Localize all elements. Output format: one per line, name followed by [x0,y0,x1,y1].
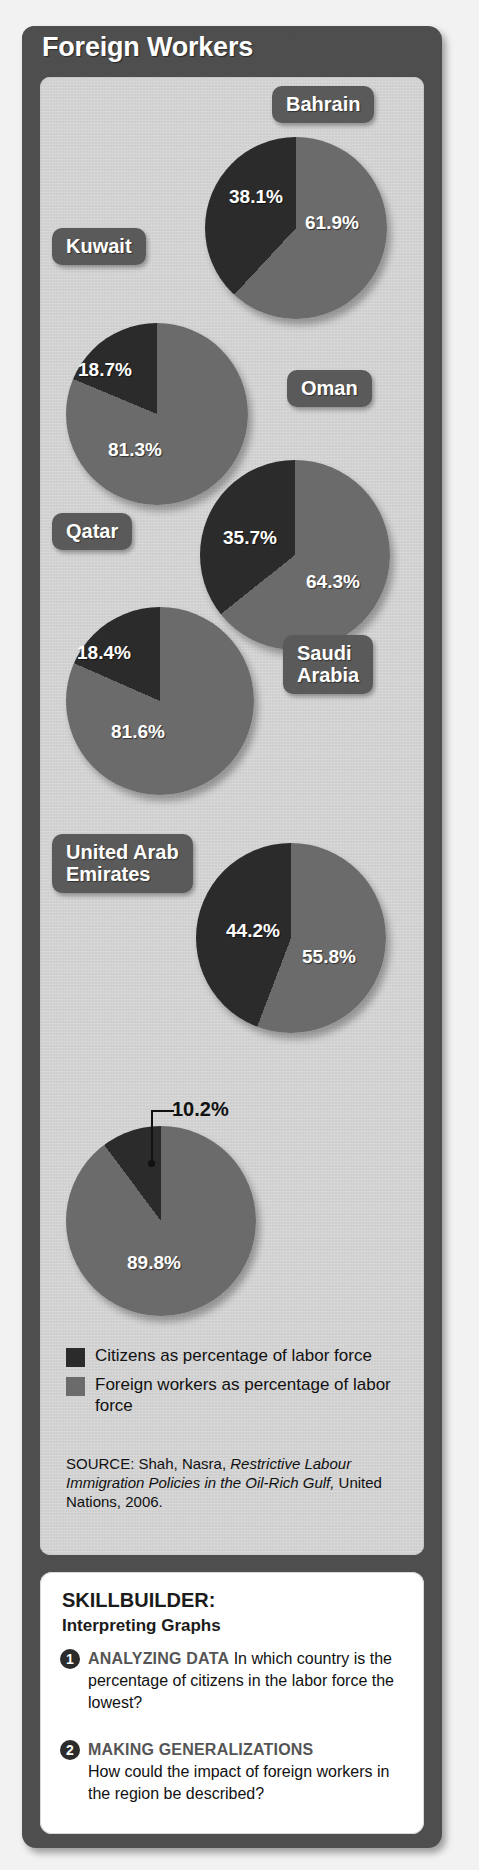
pie-label-bahrain-foreign: 61.9% [305,212,359,234]
pie-chart-uae [66,1126,256,1316]
legend-item-citizens: Citizens as percentage of labor force [66,1345,396,1367]
question-1-body: ANALYZING DATA In which country is the p… [88,1648,408,1714]
page-title: Foreign Workers [42,32,253,63]
source-citation: SOURCE: Shah, Nasra, Restrictive Labour … [66,1454,396,1511]
callout-line-horizontal-uae [151,1110,174,1112]
legend-label-citizens: Citizens as percentage of labor force [95,1345,372,1366]
pie-chart-oman [200,460,390,650]
pie-label-uae-citizens: 10.2% [172,1098,229,1121]
question-2-body: MAKING GENERALIZATIONS How could the imp… [88,1739,408,1805]
pie-label-oman-foreign: 64.3% [306,571,360,593]
country-tab-uae: United Arab Emirates [52,834,193,893]
pie-label-uae-foreign: 89.8% [127,1252,181,1274]
callout-line-vertical-uae [151,1110,153,1162]
legend-item-foreign: Foreign workers as percentage of labor f… [66,1374,396,1416]
question-number-2-icon: 2 [60,1740,80,1760]
infographic-page: Foreign Workers Bahrain Kuwait Oman Qata… [0,0,479,1870]
legend-swatch-citizens-icon [66,1348,85,1367]
chart-legend: Citizens as percentage of labor force Fo… [66,1345,396,1423]
country-tab-kuwait: Kuwait [52,228,146,265]
pie-label-kuwait-foreign: 81.3% [108,439,162,461]
pie-label-oman-citizens: 35.7% [223,527,277,549]
skillbuilder-heading: SKILLBUILDER: [62,1589,215,1612]
country-tab-qatar: Qatar [52,513,132,550]
question-2-text: How could the impact of foreign workers … [88,1763,389,1802]
pie-chart-qatar [66,607,254,795]
panel-texture [40,77,424,1555]
pie-label-saudi-foreign: 55.8% [302,946,356,968]
source-prefix: SOURCE: Shah, Nasra, [66,1455,230,1472]
skillbuilder-subheading: Interpreting Graphs [62,1616,221,1636]
pie-label-qatar-foreign: 81.6% [111,721,165,743]
legend-swatch-foreign-icon [66,1377,85,1396]
country-tab-bahrain: Bahrain [272,86,374,123]
skillbuilder-question-2: 2 MAKING GENERALIZATIONS How could the i… [60,1739,408,1805]
pie-chart-saudi [196,843,386,1033]
pie-label-qatar-citizens: 18.4% [77,642,131,664]
skillbuilder-box: SKILLBUILDER: Interpreting Graphs 1 ANAL… [40,1572,424,1834]
question-number-1-icon: 1 [60,1649,80,1669]
pie-label-kuwait-citizens: 18.7% [78,359,132,381]
legend-label-foreign: Foreign workers as percentage of labor f… [95,1374,396,1416]
pie-label-saudi-citizens: 44.2% [226,920,280,942]
pie-chart-kuwait [66,323,248,505]
pie-chart-bahrain [205,137,387,319]
country-tab-saudi: Saudi Arabia [283,635,373,694]
skillbuilder-question-1: 1 ANALYZING DATA In which country is the… [60,1648,408,1714]
chart-panel [40,77,424,1555]
pie-label-bahrain-citizens: 38.1% [229,186,283,208]
question-1-caption: ANALYZING DATA [88,1650,229,1667]
country-tab-oman: Oman [287,370,372,407]
question-2-caption: MAKING GENERALIZATIONS [88,1741,313,1758]
